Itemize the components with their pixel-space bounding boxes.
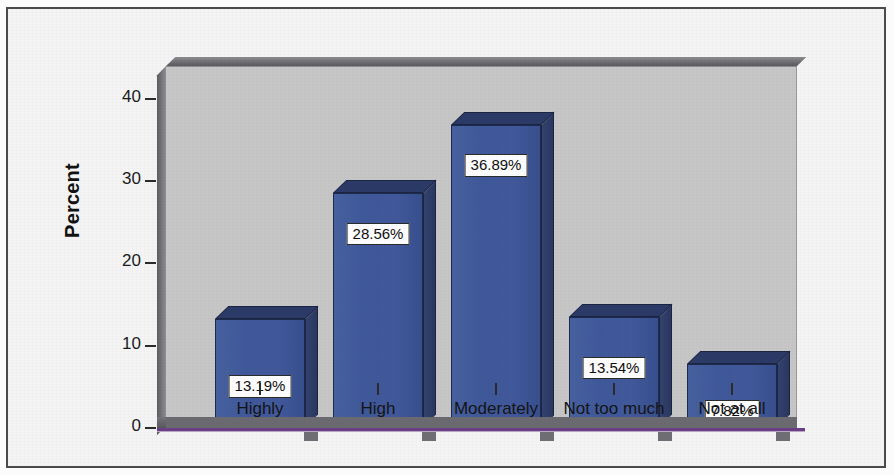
bar-side-face (423, 180, 436, 428)
plot-area: 13.19%28.56%36.89%13.54%7.82% (157, 57, 805, 435)
y-axis-tick-mark (145, 180, 156, 182)
x-axis-category-label: Moderately (454, 399, 538, 419)
bar-side-face (305, 306, 318, 428)
bar-top-face (687, 351, 790, 364)
x-axis-tick-mark (377, 383, 379, 395)
plot-wall-top-bevel (166, 57, 806, 66)
y-axis-tick-mark (145, 345, 156, 347)
y-axis-tick-group: 30 (100, 180, 156, 182)
x-axis-tick-mark (731, 383, 733, 395)
bar-top-face (451, 112, 554, 125)
bar-value-label: 36.89% (465, 154, 528, 176)
y-axis-tick-group: 10 (100, 345, 156, 347)
y-axis-tick-mark (145, 98, 156, 100)
y-axis-tick-group: 40 (100, 98, 156, 100)
bar-top-face (215, 306, 318, 319)
x-axis-category-label: High (361, 399, 396, 419)
bar-value-label: 28.56% (347, 223, 410, 245)
x-axis-tick-mark (613, 383, 615, 395)
x-axis-category-label: Not at all (698, 399, 765, 419)
x-axis-category-label: Highly (236, 399, 283, 419)
bar-top-face (569, 304, 672, 317)
bar-side-face (541, 111, 554, 428)
y-axis-tick-group: 0 (100, 427, 156, 429)
x-axis-category-label: Not too much (563, 399, 664, 419)
plot-wall-left-bevel (157, 66, 166, 435)
x-axis-tick-mark (495, 383, 497, 395)
y-axis-tick-label: 40 (122, 87, 141, 107)
y-axis-tick-group: 20 (100, 262, 156, 264)
y-axis-tick-mark (145, 427, 156, 429)
x-axis-tick-mark (259, 383, 261, 395)
y-axis-tick-label: 10 (122, 334, 141, 354)
y-axis-tick-label: 0 (132, 416, 141, 436)
bar-value-label: 13.54% (583, 357, 646, 379)
y-axis-title: Percent (61, 131, 84, 271)
y-axis-tick-label: 20 (122, 251, 141, 271)
y-axis-tick-mark (145, 262, 156, 264)
chart-canvas: Percent 010203040 13.19%28.56%36.89%13.5… (8, 9, 884, 466)
scanned-page: Percent 010203040 13.19%28.56%36.89%13.5… (0, 0, 894, 475)
chart-figure: Percent 010203040 13.19%28.56%36.89%13.5… (6, 7, 886, 468)
y-axis-tick-label: 30 (122, 169, 141, 189)
bar-top-face (333, 180, 436, 193)
axis-baseline-shadow (157, 431, 805, 432)
